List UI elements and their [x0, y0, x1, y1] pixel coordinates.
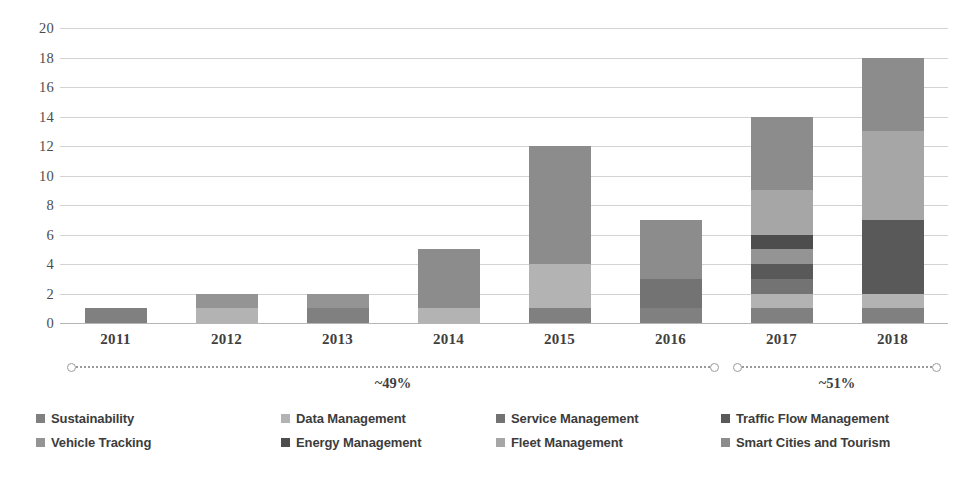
stacked-bar-chart: 20181614121086420 2011201220132014201520…	[0, 0, 961, 482]
bar-segment[interactable]	[307, 308, 369, 323]
bar-group-2016[interactable]	[615, 28, 726, 323]
x-tick-label-2013: 2013	[282, 331, 393, 348]
bar-segment[interactable]	[529, 308, 591, 323]
x-tick-label-2015: 2015	[504, 331, 615, 348]
bracket-line	[69, 366, 717, 368]
x-tick-label-2016: 2016	[615, 331, 726, 348]
bar-stack[interactable]	[529, 146, 591, 323]
y-tick-label: 0	[47, 315, 54, 332]
bar-group-2017[interactable]	[726, 28, 837, 323]
bar-segment[interactable]	[196, 308, 258, 323]
legend-label: Vehicle Tracking	[51, 435, 151, 450]
bar-stack[interactable]	[418, 249, 480, 323]
bracket-label: ~49%	[69, 375, 717, 392]
plot-area: 20181614121086420	[0, 0, 961, 340]
bar-segment[interactable]	[640, 279, 702, 309]
bar-group-2014[interactable]	[393, 28, 504, 323]
x-tick-label-2014: 2014	[393, 331, 504, 348]
bar-segment[interactable]	[751, 117, 813, 191]
legend-item-service-management[interactable]: Service Management	[496, 411, 721, 426]
y-tick-label: 20	[39, 20, 54, 37]
bar-segment[interactable]	[418, 308, 480, 323]
bar-segment[interactable]	[85, 308, 147, 323]
legend-label: Traffic Flow Management	[736, 411, 889, 426]
bar-segment[interactable]	[862, 308, 924, 323]
y-tick-label: 8	[47, 197, 54, 214]
x-tick-label-2012: 2012	[171, 331, 282, 348]
x-axis-line	[60, 323, 948, 324]
y-tick-label: 10	[39, 167, 54, 184]
legend-swatch-icon	[721, 438, 730, 447]
bar-stack[interactable]	[862, 58, 924, 324]
bracket-cap-left	[733, 363, 742, 372]
bar-stack[interactable]	[196, 294, 258, 324]
bar-group-2013[interactable]	[282, 28, 393, 323]
bar-segment[interactable]	[418, 249, 480, 308]
y-tick-label: 4	[47, 256, 54, 273]
bar-segment[interactable]	[862, 220, 924, 294]
bar-group-2012[interactable]	[171, 28, 282, 323]
bracket-~49%: ~49%	[69, 361, 717, 381]
bar-segment[interactable]	[751, 190, 813, 234]
annotation-brackets: ~49%~51%	[60, 361, 948, 403]
bracket-~51%: ~51%	[735, 361, 939, 381]
bar-segment[interactable]	[862, 294, 924, 309]
bar-segment[interactable]	[862, 58, 924, 132]
bar-segment[interactable]	[751, 264, 813, 279]
bar-group-2018[interactable]	[837, 28, 948, 323]
legend-label: Smart Cities and Tourism	[736, 435, 890, 450]
legend-swatch-icon	[281, 438, 290, 447]
legend-swatch-icon	[36, 414, 45, 423]
bar-segment[interactable]	[751, 235, 813, 250]
bar-group-2011[interactable]	[60, 28, 171, 323]
legend-label: Fleet Management	[511, 435, 623, 450]
legend-item-sustainability[interactable]: Sustainability	[36, 411, 281, 426]
legend-swatch-icon	[496, 414, 505, 423]
legend-item-energy-management[interactable]: Energy Management	[281, 435, 496, 450]
y-tick-label: 2	[47, 285, 54, 302]
bracket-cap-right	[710, 363, 719, 372]
legend-swatch-icon	[721, 414, 730, 423]
bar-segment[interactable]	[307, 294, 369, 309]
bar-group-2015[interactable]	[504, 28, 615, 323]
bar-segment[interactable]	[529, 264, 591, 308]
y-tick-label: 16	[39, 79, 54, 96]
bracket-cap-right	[932, 363, 941, 372]
legend-item-vehicle-tracking[interactable]: Vehicle Tracking	[36, 435, 281, 450]
bar-stack[interactable]	[307, 294, 369, 324]
bar-segment[interactable]	[751, 279, 813, 294]
x-tick-label-2018: 2018	[837, 331, 948, 348]
bracket-line	[735, 366, 939, 368]
legend-label: Data Management	[296, 411, 406, 426]
legend-item-fleet-management[interactable]: Fleet Management	[496, 435, 721, 450]
x-tick-label-2011: 2011	[60, 331, 171, 348]
bar-stack[interactable]	[640, 220, 702, 323]
legend-label: Service Management	[511, 411, 639, 426]
bracket-label: ~51%	[735, 375, 939, 392]
y-tick-label: 6	[47, 226, 54, 243]
y-tick-label: 14	[39, 108, 54, 125]
y-tick-label: 18	[39, 49, 54, 66]
legend-label: Energy Management	[296, 435, 421, 450]
bar-segment[interactable]	[196, 294, 258, 309]
chart-legend: SustainabilityData ManagementService Man…	[36, 406, 936, 454]
bracket-cap-left	[67, 363, 76, 372]
legend-swatch-icon	[496, 438, 505, 447]
legend-item-traffic-flow-management[interactable]: Traffic Flow Management	[721, 411, 936, 426]
legend-item-data-management[interactable]: Data Management	[281, 411, 496, 426]
bar-segment[interactable]	[751, 308, 813, 323]
bar-segment[interactable]	[751, 249, 813, 264]
bar-stack[interactable]	[751, 117, 813, 324]
bar-stack[interactable]	[85, 308, 147, 323]
bars-container	[60, 28, 948, 323]
bar-segment[interactable]	[751, 294, 813, 309]
legend-item-smart-cities-and-tourism[interactable]: Smart Cities and Tourism	[721, 435, 936, 450]
bar-segment[interactable]	[640, 220, 702, 279]
legend-label: Sustainability	[51, 411, 134, 426]
bar-segment[interactable]	[862, 131, 924, 220]
legend-swatch-icon	[36, 438, 45, 447]
legend-swatch-icon	[281, 414, 290, 423]
bar-segment[interactable]	[529, 146, 591, 264]
y-tick-label: 12	[39, 138, 54, 155]
bar-segment[interactable]	[640, 308, 702, 323]
